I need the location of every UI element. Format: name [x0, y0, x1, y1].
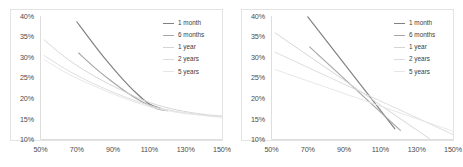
legend-left: 1 month6 months1 year2 years5 years	[163, 17, 204, 78]
x-axis-tick-label: 70%	[64, 145, 90, 154]
y-axis-tick-label: 15%	[243, 115, 265, 124]
legend-swatch-line-icon	[394, 59, 405, 60]
y-axis-tick-label: 15%	[12, 115, 34, 124]
y-axis-tick-label: 35%	[243, 32, 265, 41]
legend-item[interactable]: 1 month	[163, 17, 204, 29]
legend-swatch-line-icon	[163, 35, 174, 36]
figure-container: 10%15%20%25%30%35%40%50%70%90%110%130%15…	[0, 0, 463, 167]
y-axis-tick-label: 30%	[12, 53, 34, 62]
y-axis-tick-label: 25%	[243, 73, 265, 82]
x-axis-tick-label: 130%	[173, 145, 199, 154]
x-axis-tick-label: 70%	[295, 145, 321, 154]
y-axis-tick-label: 20%	[243, 94, 265, 103]
y-axis-tick-label: 35%	[12, 32, 34, 41]
series-line-1-month	[77, 22, 160, 108]
legend-item-label: 1 year	[178, 44, 196, 50]
legend-swatch-line-icon	[163, 23, 174, 24]
legend-item[interactable]: 6 months	[163, 29, 204, 41]
x-axis-tick-label: 50%	[28, 145, 54, 154]
legend-item-label: 1 year	[409, 44, 427, 50]
legend-swatch-line-icon	[394, 35, 405, 36]
x-axis-tick-label: 110%	[367, 145, 393, 154]
legend-swatch-line-icon	[394, 47, 405, 48]
legend-item[interactable]: 2 years	[394, 54, 435, 66]
legend-item-label: 5 years	[409, 69, 430, 75]
y-axis-tick-label: 10%	[243, 135, 265, 144]
legend-item-label: 2 years	[409, 56, 430, 62]
x-axis-tick-label: 90%	[100, 145, 126, 154]
y-axis-tick-label: 40%	[12, 12, 34, 21]
legend-swatch-line-icon	[394, 71, 405, 72]
legend-item-label: 6 months	[409, 32, 435, 38]
series-line-6-months	[310, 47, 401, 131]
series-line-6-months	[79, 53, 168, 111]
y-axis-tick-label: 20%	[12, 94, 34, 103]
legend-item-label: 1 month	[409, 20, 432, 26]
legend-item-label: 6 months	[178, 32, 204, 38]
legend-right: 1 month6 months1 year2 years5 years	[394, 17, 435, 78]
x-axis-tick-label: 50%	[259, 145, 285, 154]
series-line-5-years	[275, 70, 453, 132]
legend-item-label: 2 years	[178, 56, 199, 62]
x-axis-tick-label: 130%	[404, 145, 430, 154]
legend-item[interactable]: 1 year	[163, 41, 204, 53]
legend-item[interactable]: 5 years	[163, 66, 204, 78]
legend-item-label: 1 month	[178, 20, 201, 26]
y-axis-tick-label: 40%	[243, 12, 265, 21]
chart-panel-right: 10%15%20%25%30%35%40%50%70%90%110%130%15…	[231, 0, 463, 167]
x-axis-tick-label: 110%	[136, 145, 162, 154]
legend-swatch-line-icon	[163, 47, 174, 48]
legend-item[interactable]: 6 months	[394, 29, 435, 41]
x-axis-tick-label: 150%	[440, 145, 463, 154]
y-axis-tick-label: 25%	[12, 73, 34, 82]
legend-swatch-line-icon	[163, 59, 174, 60]
legend-item[interactable]: 5 years	[394, 66, 435, 78]
chart-panel-left: 10%15%20%25%30%35%40%50%70%90%110%130%15…	[0, 0, 232, 167]
legend-swatch-line-icon	[163, 71, 174, 72]
legend-item[interactable]: 2 years	[163, 54, 204, 66]
legend-item[interactable]: 1 year	[394, 41, 435, 53]
legend-item[interactable]: 1 month	[394, 17, 435, 29]
legend-swatch-line-icon	[394, 23, 405, 24]
y-axis-tick-label: 30%	[243, 53, 265, 62]
y-axis-tick-label: 10%	[12, 135, 34, 144]
series-line-1-month	[308, 17, 395, 129]
legend-item-label: 5 years	[178, 69, 199, 75]
x-axis-tick-label: 90%	[331, 145, 357, 154]
